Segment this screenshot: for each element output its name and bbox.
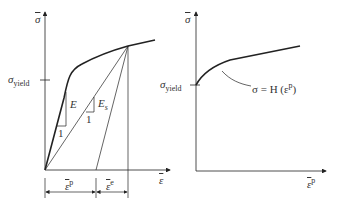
hardening-curve <box>196 46 300 85</box>
secant-modulus-label: Es <box>98 98 108 112</box>
hardening-function-label: σ = H (εp) <box>252 82 296 95</box>
left-y-axis-label: σ <box>35 14 40 25</box>
diagram-canvas <box>0 0 339 209</box>
leader-line <box>222 71 251 86</box>
left-x-axis-label: ε <box>159 175 163 186</box>
slope-unit-e: 1 <box>58 128 64 139</box>
right-x-axis-label: εp <box>307 177 315 190</box>
elastic-modulus-label: E <box>70 99 77 110</box>
slope-unit-es: 1 <box>86 114 92 125</box>
right-y-axis-label: σ <box>185 14 190 25</box>
secant-line <box>45 46 128 170</box>
left-yield-label: σyield <box>8 74 29 88</box>
elastic-strain-label: εe <box>106 179 114 192</box>
plastic-strain-label: εp <box>65 179 73 192</box>
slope-triangle-es <box>86 97 94 112</box>
right-yield-label: σyield <box>160 79 181 93</box>
